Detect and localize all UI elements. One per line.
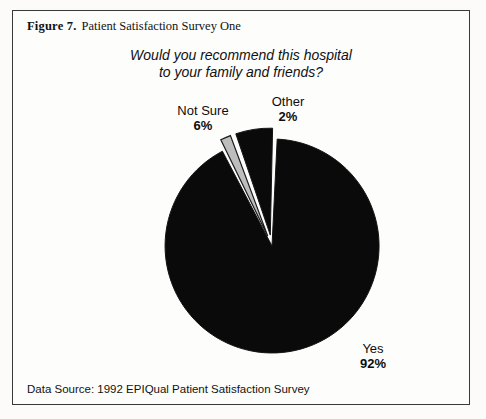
pie-label-yes-name: Yes bbox=[343, 341, 403, 356]
figure-frame: Figure 7.Patient Satisfaction Survey One… bbox=[12, 10, 470, 405]
pie-label-other-pct: 2% bbox=[255, 109, 321, 124]
figure-data-source: Data Source: 1992 EPIQual Patient Satisf… bbox=[27, 383, 310, 395]
pie-chart: Not Sure 6% Other 2% Yes 92% bbox=[13, 11, 471, 404]
pie-label-other-name: Other bbox=[255, 94, 321, 109]
pie-label-yes: Yes 92% bbox=[343, 341, 403, 371]
pie-label-not-sure-name: Not Sure bbox=[161, 103, 245, 118]
pie-label-not-sure: Not Sure 6% bbox=[161, 103, 245, 133]
pie-label-other: Other 2% bbox=[255, 94, 321, 124]
pie-label-yes-pct: 92% bbox=[343, 356, 403, 371]
pie-label-not-sure-pct: 6% bbox=[161, 118, 245, 133]
